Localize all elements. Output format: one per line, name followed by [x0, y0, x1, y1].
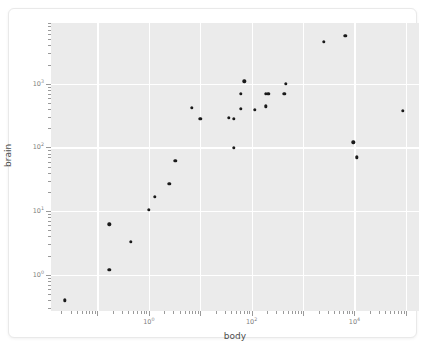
x-tick-minor — [144, 311, 145, 314]
x-gridline-major — [354, 23, 355, 311]
y-tick-minor — [48, 236, 51, 237]
y-tick-minor — [48, 128, 51, 129]
x-tick-minor — [231, 311, 232, 314]
y-tick-minor — [48, 39, 51, 40]
y-tick-minor — [48, 181, 51, 182]
scatter-point — [129, 240, 132, 243]
scatter-point — [63, 298, 66, 301]
y-tick-label: 101 — [27, 207, 44, 215]
y-tick-major — [46, 275, 51, 276]
y-tick-minor — [48, 256, 51, 257]
x-tick-minor — [173, 311, 174, 314]
x-tick-minor — [164, 311, 165, 314]
x-gridline-major — [406, 23, 407, 311]
y-tick-minor — [48, 154, 51, 155]
x-tick-minor — [192, 311, 193, 314]
x-tick-minor — [133, 311, 134, 314]
x-tick-minor — [398, 311, 399, 314]
y-gridline-major — [51, 211, 419, 212]
x-tick-minor — [86, 311, 87, 314]
y-tick-minor — [48, 65, 51, 66]
x-tick-minor — [283, 311, 284, 314]
y-tick-minor — [48, 150, 51, 151]
y-tick-minor — [48, 173, 51, 174]
y-axis-title: brain — [3, 144, 13, 167]
x-tick-major — [406, 311, 407, 316]
y-tick-minor — [48, 244, 51, 245]
x-tick-label: 104 — [349, 318, 360, 326]
x-tick-minor — [225, 311, 226, 314]
x-gridline-major — [252, 23, 253, 311]
x-tick-label: 102 — [246, 318, 257, 326]
x-tick-minor — [146, 311, 147, 314]
x-tick-minor — [198, 311, 199, 314]
x-tick-minor — [89, 311, 90, 314]
x-tick-minor — [385, 311, 386, 314]
x-tick-minor — [401, 311, 402, 314]
y-tick-minor — [48, 162, 51, 163]
x-tick-minor — [122, 311, 123, 314]
y-tick-minor — [48, 230, 51, 231]
scatter-point — [190, 106, 193, 109]
scatter-point — [264, 105, 267, 108]
y-tick-label: 100 — [27, 271, 44, 279]
scatter-point — [174, 159, 177, 162]
x-tick-minor — [244, 311, 245, 314]
x-tick-minor — [267, 311, 268, 314]
x-tick-minor — [276, 311, 277, 314]
x-tick-minor — [328, 311, 329, 314]
x-tick-major — [354, 311, 355, 316]
y-tick-minor — [48, 30, 51, 31]
scatter-point — [108, 268, 111, 271]
y-tick-minor — [48, 294, 51, 295]
y-tick-minor — [48, 23, 51, 24]
x-tick-minor — [82, 311, 83, 314]
scatter-point — [239, 107, 242, 110]
y-tick-minor — [48, 217, 51, 218]
x-tick-minor — [301, 311, 302, 314]
x-tick-minor — [240, 311, 241, 314]
y-tick-minor — [48, 214, 51, 215]
scatter-point — [284, 82, 287, 85]
y-tick-major — [46, 211, 51, 212]
scatter-point — [232, 146, 235, 149]
x-tick-minor — [370, 311, 371, 314]
figure-canvas: 100102104100101102103 body brain — [0, 0, 425, 348]
x-tick-minor — [195, 311, 196, 314]
x-tick-minor — [249, 311, 250, 314]
y-tick-minor — [48, 103, 51, 104]
scatter-point — [108, 223, 111, 226]
x-tick-minor — [92, 311, 93, 314]
y-tick-minor — [48, 289, 51, 290]
x-tick-minor — [349, 311, 350, 314]
x-gridline-major — [97, 23, 98, 311]
y-tick-label: 102 — [27, 143, 44, 151]
x-tick-minor — [61, 311, 62, 314]
y-tick-minor — [48, 87, 51, 88]
x-tick-minor — [71, 311, 72, 314]
x-tick-minor — [113, 311, 114, 314]
x-tick-major — [200, 311, 201, 316]
y-tick-minor — [48, 285, 51, 286]
y-gridline-major — [51, 84, 419, 85]
x-tick-minor — [247, 311, 248, 314]
y-tick-minor — [48, 157, 51, 158]
y-tick-minor — [48, 98, 51, 99]
scatter-point — [401, 109, 404, 112]
scatter-point — [199, 117, 202, 120]
x-tick-major — [97, 311, 98, 316]
x-tick-minor — [394, 311, 395, 314]
x-gridline-major — [149, 23, 150, 311]
x-tick-minor — [292, 311, 293, 314]
x-tick-minor — [288, 311, 289, 314]
y-tick-minor — [48, 281, 51, 282]
x-tick-major — [252, 311, 253, 316]
x-tick-major — [149, 311, 150, 316]
x-tick-minor — [379, 311, 380, 314]
scatter-point — [322, 40, 325, 43]
scatter-point — [243, 79, 246, 82]
scatter-point — [153, 195, 156, 198]
plot-card: 100102104100101102103 body brain — [8, 8, 417, 338]
y-tick-minor — [48, 221, 51, 222]
x-tick-minor — [137, 311, 138, 314]
